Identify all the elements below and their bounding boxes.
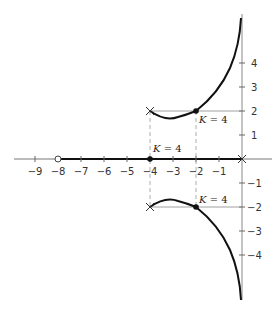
x-tick-label: −6 (97, 166, 112, 177)
y-tick-label: 4 (251, 58, 257, 69)
y-tick-label: −4 (247, 250, 262, 261)
x-tick-labels: −9 −8 −7 −6 −5 −4 −3 −2 −1 (28, 166, 227, 177)
x-tick-label: −8 (51, 166, 66, 177)
y-tick-label: 1 (251, 130, 257, 141)
y-tick-label: −2 (247, 202, 262, 213)
x-tick-label: −5 (120, 166, 135, 177)
y-tick-label: −3 (247, 226, 262, 237)
y-tick-label: −1 (247, 178, 262, 189)
x-tick-label: −7 (74, 166, 89, 177)
gain-point-real (147, 156, 153, 162)
x-tick-label: −3 (166, 166, 181, 177)
x-tick-label: −1 (212, 166, 227, 177)
gain-point-upper (193, 108, 199, 114)
gain-label-real: K = 4 (152, 143, 182, 154)
y-tick-label: 3 (251, 82, 257, 93)
locus-branch-upper (150, 18, 241, 118)
x-tick-label: −9 (28, 166, 43, 177)
gain-point-lower (193, 204, 199, 210)
y-tick-label: 2 (251, 106, 257, 117)
gain-label-upper: K = 4 (198, 114, 228, 125)
locus-branch-lower (150, 200, 241, 300)
root-locus-diagram: −9 −8 −7 −6 −5 −4 −3 −2 −1 4 3 2 1 −1 −2… (0, 0, 280, 316)
zero-marker (55, 156, 61, 162)
gain-label-lower: K = 4 (198, 194, 228, 205)
